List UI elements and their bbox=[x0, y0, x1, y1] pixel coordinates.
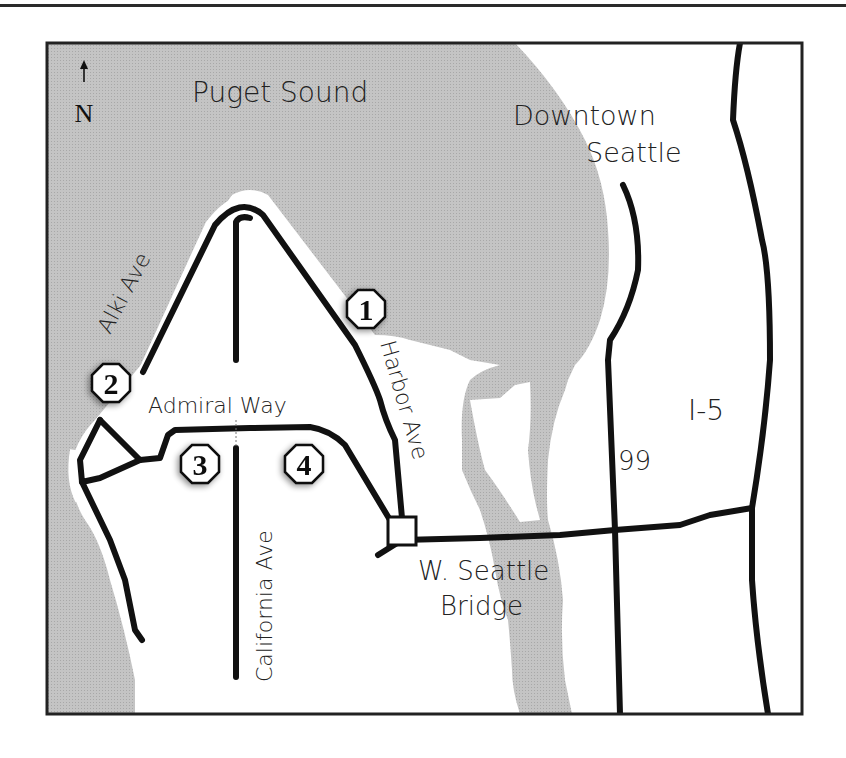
marker-3[interactable]: 3 bbox=[181, 445, 219, 483]
marker-1[interactable]: 1 bbox=[347, 290, 385, 328]
label-west-seattle: W. Seattle bbox=[418, 556, 549, 586]
map-canvas: 1 2 3 4 N Puget Sound Downtown Seattle A… bbox=[0, 0, 846, 758]
label-i5: I-5 bbox=[688, 394, 724, 427]
label-california-ave: California Ave bbox=[252, 530, 277, 682]
svg-text:1: 1 bbox=[359, 293, 374, 326]
marker-2[interactable]: 2 bbox=[92, 364, 130, 402]
bridge-junction bbox=[388, 517, 416, 545]
label-bridge: Bridge bbox=[440, 591, 523, 621]
label-puget-sound: Puget Sound bbox=[192, 76, 368, 109]
label-seattle: Seattle bbox=[586, 137, 682, 168]
label-downtown: Downtown bbox=[513, 100, 656, 131]
svg-text:2: 2 bbox=[104, 367, 119, 400]
label-admiral-way: Admiral Way bbox=[148, 393, 287, 418]
svg-text:4: 4 bbox=[297, 448, 312, 481]
marker-4[interactable]: 4 bbox=[285, 445, 323, 483]
svg-text:N: N bbox=[75, 99, 94, 128]
svg-text:3: 3 bbox=[193, 448, 208, 481]
label-route-99: 99 bbox=[618, 446, 651, 476]
